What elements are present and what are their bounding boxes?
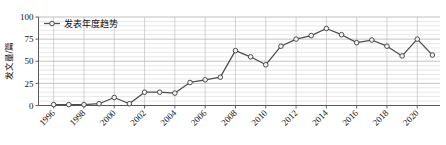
data-point-marker (233, 48, 238, 53)
data-point-marker (415, 37, 420, 42)
data-point-marker (97, 101, 102, 106)
data-point-marker (112, 95, 117, 100)
y-tick-label: 75 (25, 34, 35, 44)
data-point-marker (324, 26, 329, 31)
data-point-marker (309, 33, 314, 38)
data-point-marker (173, 91, 178, 96)
data-point-marker (218, 75, 223, 80)
y-tick-label: 100 (20, 12, 34, 22)
data-point-marker (51, 102, 56, 107)
data-point-marker (188, 80, 193, 85)
data-point-marker (430, 53, 435, 58)
data-point-marker (82, 102, 87, 107)
legend-marker-sample (50, 21, 55, 26)
chart-canvas: 0255075100 19961998200020022004200620082… (0, 0, 446, 145)
data-point-marker (157, 90, 162, 95)
data-point-marker (67, 102, 72, 107)
data-point-marker (279, 44, 284, 49)
data-point-marker (127, 101, 132, 106)
data-point-marker (400, 54, 405, 59)
data-point-marker (263, 62, 268, 67)
y-axis-title: 发文量/篇 (4, 42, 14, 81)
data-point-marker (354, 40, 359, 45)
data-point-marker (370, 38, 375, 43)
data-point-marker (248, 55, 253, 60)
y-tick-label: 50 (25, 56, 35, 66)
publication-trend-chart: 0255075100 19961998200020022004200620082… (0, 0, 446, 145)
y-tick-label: 0 (29, 101, 34, 111)
data-point-marker (294, 37, 299, 42)
data-point-marker (142, 90, 147, 95)
legend-label: 发表年度趋势 (64, 18, 118, 29)
data-point-marker (339, 32, 344, 37)
data-point-marker (203, 78, 208, 83)
data-point-marker (385, 44, 390, 49)
y-tick-label: 25 (25, 79, 35, 89)
